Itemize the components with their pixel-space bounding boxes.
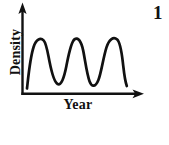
figure-number-label: 1 <box>153 2 163 24</box>
density-curve-series <box>27 38 127 88</box>
y-axis-label: Density <box>8 15 24 89</box>
density-curve-path <box>27 38 127 88</box>
figure-panel: Density Year 1 <box>0 0 169 145</box>
x-axis-label: Year <box>48 97 108 113</box>
population-cycle-chart <box>0 0 169 145</box>
